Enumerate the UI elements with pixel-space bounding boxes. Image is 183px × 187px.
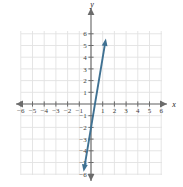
x-tick-label: −3 (52, 107, 60, 115)
x-tick-label: 2 (113, 107, 117, 115)
x-tick-label: 6 (159, 107, 163, 115)
x-tick-label: 1 (101, 107, 105, 115)
x-axis-label: x (171, 100, 176, 109)
x-tick-label: 5 (148, 107, 152, 115)
y-tick-label: 6 (83, 30, 87, 38)
y-tick-label: −3 (79, 136, 87, 144)
y-tick-label: −2 (79, 124, 87, 132)
y-tick-label: 5 (83, 42, 87, 50)
coordinate-plane: −6−5−4−3−2−1123456−6−5−4−3−2−1123456 x y (0, 0, 183, 187)
y-tick-label: −6 (79, 171, 87, 179)
y-tick-label: −1 (79, 112, 87, 120)
x-tick-label: 4 (136, 107, 140, 115)
y-tick-label: 4 (83, 54, 87, 62)
y-tick-label: 3 (83, 66, 87, 74)
x-tick-label: −5 (29, 107, 37, 115)
x-tick-label: −2 (64, 107, 72, 115)
y-tick-label: 2 (83, 77, 87, 85)
x-tick-label: 3 (124, 107, 128, 115)
x-tick-label: −4 (40, 107, 48, 115)
y-tick-label: 1 (83, 89, 87, 97)
y-axis-label: y (89, 0, 94, 9)
graph-figure: −6−5−4−3−2−1123456−6−5−4−3−2−1123456 x y (0, 0, 183, 187)
x-tick-label: −6 (17, 107, 25, 115)
